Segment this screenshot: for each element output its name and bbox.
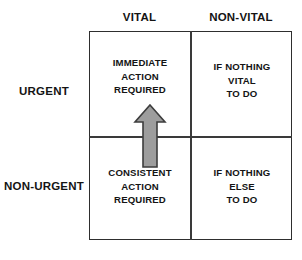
up-arrow-icon bbox=[132, 103, 168, 169]
quadrant-non-urgent-non-vital-line-3: TO DO bbox=[227, 193, 258, 207]
column-header-non-vital: NON-VITAL bbox=[190, 9, 292, 25]
quadrant-urgent-non-vital-line-2: VITAL bbox=[228, 74, 256, 88]
quadrant-urgent-non-vital: IF NOTHING VITAL TO DO bbox=[192, 32, 292, 136]
quadrant-urgent-non-vital-line-3: TO DO bbox=[227, 87, 258, 101]
quadrant-non-urgent-vital-line-3: REQUIRED bbox=[114, 193, 166, 207]
quadrant-urgent-vital-line-2: ACTION bbox=[121, 70, 159, 84]
quadrant-non-urgent-non-vital-line-1: IF NOTHING bbox=[214, 166, 271, 180]
quadrant-non-urgent-non-vital: IF NOTHING ELSE TO DO bbox=[192, 138, 292, 240]
priority-matrix-diagram: VITAL NON-VITAL URGENT NON-URGENT IMMEDI… bbox=[0, 0, 302, 260]
column-header-vital: VITAL bbox=[89, 9, 190, 25]
quadrant-non-urgent-vital-line-2: ACTION bbox=[121, 180, 159, 194]
quadrant-non-urgent-non-vital-line-2: ELSE bbox=[229, 180, 255, 194]
quadrant-urgent-non-vital-line-1: IF NOTHING bbox=[214, 60, 271, 74]
quadrant-urgent-vital-line-3: REQUIRED bbox=[114, 83, 166, 97]
quadrant-urgent-vital-line-1: IMMEDIATE bbox=[113, 56, 167, 70]
row-header-non-urgent: NON-URGENT bbox=[0, 179, 88, 193]
row-header-urgent: URGENT bbox=[0, 84, 88, 98]
